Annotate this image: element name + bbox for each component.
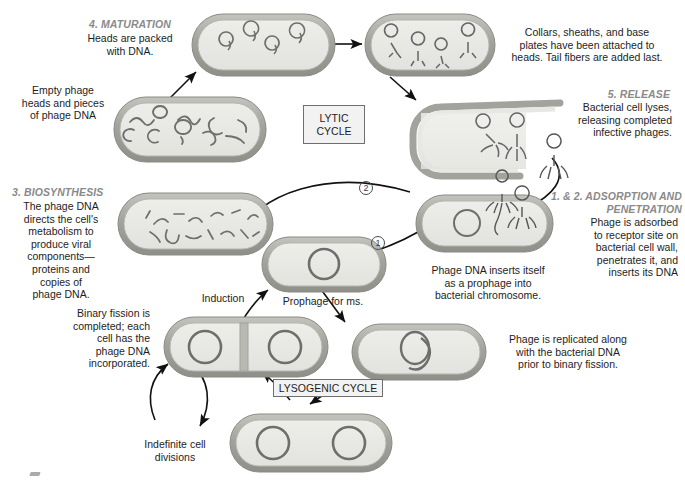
predivision-cell xyxy=(230,414,392,472)
arrow-emptyheads-to-maturation xyxy=(170,72,196,98)
heading-release: 5. RELEASE xyxy=(540,88,670,101)
heading-maturation: 4. MATURATION xyxy=(72,18,188,31)
step-number-2: 2 xyxy=(359,181,373,195)
heading-biosynthesis: 3. BIOSYNTHESIS xyxy=(12,186,122,199)
caption-indefinite-divisions: Indefinite cell divisions xyxy=(120,438,230,463)
caption-induction: Induction xyxy=(186,292,260,305)
arrow-indefinite-divisions-up xyxy=(150,364,168,420)
assembly-cell xyxy=(365,14,495,76)
caption-replication: Phage is replicated along with the bacte… xyxy=(488,333,648,371)
free-phage-descending xyxy=(540,134,568,179)
biosynthesis-cell xyxy=(118,193,273,255)
caption-release: Bacterial cell lyses, releasing complete… xyxy=(536,101,672,139)
heading-adsorption: 1. & 2. ADSORPTION AND PENETRATION xyxy=(540,190,682,215)
caption-prophage-insert: Phage DNA inserts itself as a prophage i… xyxy=(404,264,572,302)
phage-life-cycle-diagram: 4. MATURATION Heads are packed with DNA.… xyxy=(0,0,685,484)
arrow-assembly-to-lysis xyxy=(390,77,416,100)
caption-binary-fission: Binary fission is completed; each cell h… xyxy=(30,307,150,370)
caption-empty-heads: Empty phage heads and pieces of phage DN… xyxy=(12,84,114,122)
empty-heads-cell xyxy=(114,97,266,162)
caption-biosynthesis: The phage DNA directs the cell's metabol… xyxy=(4,200,118,301)
replication-cell xyxy=(352,324,486,380)
caption-maturation: Heads are packed with DNA. xyxy=(64,32,196,57)
prophage-cell xyxy=(262,237,386,292)
step-number-1: 1 xyxy=(371,236,385,250)
lytic-cycle-box: LYTIC CYCLE xyxy=(303,105,365,144)
caption-prophage-forms: Prophage for ms. xyxy=(268,295,378,308)
arrow-indefinite-divisions-down xyxy=(190,364,207,426)
divided-cell xyxy=(164,317,328,377)
lysogenic-cycle-box: LYSOGENIC CYCLE xyxy=(273,379,383,397)
arrow-biosynthesis-to-emptyheads xyxy=(146,232,154,253)
page-smudge-mark xyxy=(29,472,40,476)
maturation-cell xyxy=(192,14,335,76)
caption-assembly: Collars, sheaths, and base plates have b… xyxy=(498,26,676,64)
arrow-infection-to-biosynthesis xyxy=(233,183,410,240)
